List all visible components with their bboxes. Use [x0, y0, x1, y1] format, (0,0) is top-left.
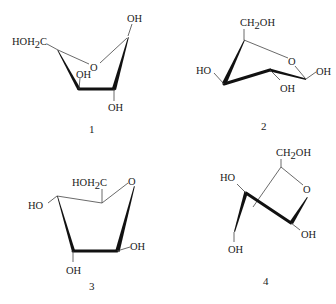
bond	[128, 24, 132, 36]
structure-number: 1	[89, 123, 95, 135]
wedge-bond	[112, 37, 129, 90]
label-oh: OH	[130, 241, 146, 252]
label-ch2oh: CH2OH	[276, 147, 311, 161]
label-ring-oxygen: O	[128, 176, 136, 187]
structure-number: 3	[89, 280, 95, 292]
structure-number: 2	[261, 120, 267, 132]
bond	[47, 44, 58, 50]
label-oh: OH	[228, 244, 244, 255]
label-hoh2c: HOH2C	[12, 36, 47, 50]
label-oh: OH	[76, 69, 92, 80]
label-ring-oxygen: O	[90, 62, 98, 73]
structure-3: HOH2C O HO OH OH 3	[28, 176, 146, 292]
bond	[58, 50, 89, 64]
structure-number: 4	[263, 275, 269, 287]
label-oh: OH	[66, 265, 82, 276]
label-hoh2c: HOH2C	[72, 177, 107, 191]
label-oh: OH	[316, 66, 332, 77]
label-ho: HO	[196, 65, 212, 76]
bond	[244, 40, 288, 58]
bond	[246, 193, 291, 223]
wedge-bond	[290, 197, 308, 224]
structure-4: CH2OH O HO OH OH 4	[220, 147, 317, 287]
wedge-bond	[270, 69, 306, 81]
structure-1: OH HOH2C O OH OH 1	[12, 13, 143, 135]
bond	[306, 72, 316, 79]
label-ho: HO	[28, 200, 44, 211]
structure-2: CH2OH HO O OH OH 2	[196, 17, 332, 132]
label-oh: OH	[301, 229, 317, 240]
bond	[291, 223, 300, 230]
label-ho: HO	[220, 172, 236, 183]
bond	[57, 196, 102, 203]
label-ring-oxygen: O	[288, 56, 296, 67]
wedge-bond	[234, 191, 248, 232]
bond	[281, 167, 303, 185]
chemical-structures-figure: OH HOH2C O OH OH 1 CH2OH HO O OH OH 2	[0, 0, 336, 304]
label-oh: OH	[127, 13, 143, 24]
bond	[237, 184, 246, 193]
bond	[48, 196, 57, 203]
label-ch2oh: CH2OH	[240, 17, 275, 31]
label-oh: OH	[108, 102, 124, 113]
wedge-bond	[57, 196, 76, 252]
bond	[214, 73, 224, 84]
label-oh: OH	[280, 83, 296, 94]
label-ring-oxygen: O	[303, 184, 311, 195]
